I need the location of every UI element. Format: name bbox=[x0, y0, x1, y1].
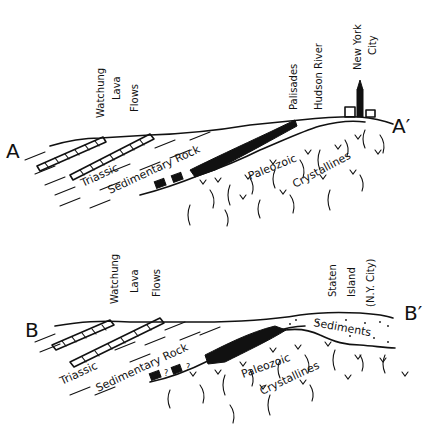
sill-block bbox=[171, 172, 183, 182]
label-uncertain-1: ? bbox=[164, 369, 168, 378]
label-city: City bbox=[367, 35, 378, 55]
nyc-skyline-icon bbox=[345, 80, 375, 117]
label-uncertain-2: ? bbox=[186, 363, 190, 372]
marker-a-prime: A′ bbox=[392, 114, 411, 138]
cross-section-b: B B′ ? ? bbox=[25, 254, 423, 423]
marker-a: A bbox=[6, 139, 20, 163]
geologic-cross-sections: A A′ bbox=[0, 0, 432, 432]
label-flows-b: Flows bbox=[151, 269, 162, 297]
label-ny-city: (N.Y. City) bbox=[365, 258, 376, 307]
label-hudson-river: Hudson River bbox=[313, 42, 324, 110]
marker-b: B bbox=[25, 318, 39, 342]
label-flows-a: Flows bbox=[129, 84, 140, 112]
crystalline-pattern-a bbox=[188, 130, 384, 226]
label-new-york: New York bbox=[352, 24, 363, 70]
label-crystallines-a: Crystallines bbox=[290, 149, 353, 191]
label-island: Island bbox=[346, 267, 357, 297]
sill-block bbox=[149, 370, 161, 380]
label-palisades: Palisades bbox=[288, 64, 299, 110]
marker-b-prime: B′ bbox=[404, 301, 423, 325]
label-lava-b: Lava bbox=[129, 269, 140, 293]
label-staten: Staten bbox=[327, 264, 338, 297]
label-lava-a: Lava bbox=[111, 76, 122, 100]
cross-section-a: A A′ bbox=[6, 24, 411, 226]
label-watchung-a: Watchung bbox=[95, 68, 106, 118]
label-watchung-b: Watchung bbox=[109, 254, 120, 304]
sill-block bbox=[154, 178, 166, 188]
